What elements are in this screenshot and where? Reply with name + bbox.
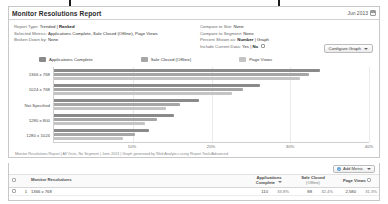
chart-plot-area	[53, 67, 369, 143]
chevron-down-icon	[364, 48, 368, 50]
metric-percent: 33.8%	[273, 189, 289, 194]
header-sale-closed-offline[interactable]: Sale Closed (Offline)	[291, 175, 335, 187]
chart-y-axis-labels: 1366 x 7681024 x 768Not Specified1280 x …	[15, 67, 53, 143]
date-range-selector[interactable]: Jun 2013	[347, 10, 376, 16]
legend-swatch-1	[141, 57, 148, 62]
bar-3-1[interactable]	[54, 118, 157, 121]
bar-group-3	[54, 112, 369, 127]
legend-item-2[interactable]: Page Views	[239, 57, 272, 62]
legend-label-1: Sale Closed (Offline)	[151, 57, 191, 62]
chart-area: 1366 x 7681024 x 768Not Specified1280 x …	[15, 67, 375, 151]
bar-0-0[interactable]	[54, 69, 320, 72]
y-axis-label-4[interactable]: 1280 x 1024	[15, 128, 53, 143]
bar-4-2[interactable]	[54, 137, 123, 140]
table-header: Monitor Resolutions Applications Complet…	[9, 175, 379, 187]
param-selected-metrics: Selected Metrics: Applications Complete,…	[14, 31, 194, 38]
calendar-icon[interactable]	[370, 10, 376, 16]
param-value-strong[interactable]: No	[252, 44, 258, 49]
bar-group-1	[54, 82, 369, 97]
param-report-type: Report Type: Trended | Ranked	[14, 24, 194, 31]
row-checkbox-cell[interactable]	[9, 187, 19, 195]
report-title-bar: Monitor Resolutions Report Jun 2013	[9, 7, 379, 20]
bar-2-2[interactable]	[54, 107, 166, 110]
header-label: Page Views	[343, 178, 366, 183]
checkbox-icon[interactable]	[12, 178, 16, 182]
y-axis-label-3[interactable]: 1280 x 800	[15, 113, 53, 128]
param-label: Broken Down by:	[14, 37, 47, 42]
row-rank: 1	[19, 187, 29, 195]
param-broken-down-by: Broken Down by: None	[14, 37, 194, 44]
add-metric-label: Add Metric	[343, 166, 363, 171]
legend-label-2: Page Views	[249, 57, 272, 62]
row-monitor-resolution[interactable]: 1366 x 768	[29, 187, 247, 195]
header-applications-complete[interactable]: Applications Complete	[247, 175, 291, 187]
param-value-strong[interactable]: Ranked	[59, 24, 75, 29]
table-row[interactable]: 11366 x 76811033.8%8832.4%2,58031.3%	[9, 187, 379, 195]
configure-graph-label: Configure Graph	[329, 46, 361, 51]
bar-group-0	[54, 67, 369, 82]
report-parameters-left: Report Type: Trended | Ranked Selected M…	[14, 24, 194, 50]
param-compare-to-segment: Compare to Segment: None	[200, 31, 374, 38]
header-sublabel: (Offline)	[306, 180, 320, 185]
x-axis-tick-3: 30%	[286, 144, 294, 149]
param-value[interactable]: None	[48, 37, 58, 42]
bar-4-1[interactable]	[54, 133, 135, 136]
param-value-strong[interactable]: Number	[237, 37, 253, 42]
bar-4-0[interactable]	[54, 129, 149, 132]
chart-x-axis-labels: 10%20%30%40%	[53, 144, 369, 152]
legend-label-0: Applications Complete	[49, 57, 93, 62]
data-table: Monitor Resolutions Applications Complet…	[9, 175, 379, 196]
y-axis-label-2[interactable]: Not Specified	[15, 97, 53, 112]
param-value[interactable]: Trended |	[40, 24, 59, 29]
row-sale-closed-offline: 8832.4%	[291, 187, 335, 195]
y-axis-label-1[interactable]: 1024 x 768	[15, 82, 53, 97]
sort-descending-icon[interactable]	[278, 181, 282, 183]
header-select-all[interactable]	[9, 175, 19, 187]
configure-graph-button[interactable]: Configure Graph	[324, 44, 373, 53]
bar-1-1[interactable]	[54, 88, 243, 91]
data-table-panel: + Add Metric Monitor Resolutions Applica…	[8, 163, 380, 201]
param-label: Report Type:	[14, 24, 39, 29]
legend-item-0[interactable]: Applications Complete	[39, 57, 93, 62]
metric-percent: 31.3%	[361, 189, 377, 194]
bar-2-1[interactable]	[54, 103, 180, 106]
table-body: 11366 x 76811033.8%8832.4%2,58031.3%	[9, 187, 379, 195]
bar-3-0[interactable]	[54, 114, 174, 117]
legend-item-1[interactable]: Sale Closed (Offline)	[141, 57, 191, 62]
legend-swatch-0	[39, 57, 46, 62]
row-applications-complete: 11033.8%	[247, 187, 291, 195]
bar-0-1[interactable]	[54, 73, 309, 76]
param-value[interactable]: Applications Complete, Sale Closed (Offl…	[48, 31, 158, 36]
chevron-down-icon	[367, 168, 371, 170]
bar-1-0[interactable]	[54, 84, 260, 87]
chart-footnote: Monitor Resolutions Report | All Visits,…	[15, 152, 375, 156]
bar-0-2[interactable]	[54, 77, 300, 80]
add-metric-button[interactable]: + Add Metric	[333, 165, 375, 173]
bar-2-0[interactable]	[54, 99, 199, 102]
report-panel: Monitor Resolutions Report Jun 2013 Repo…	[8, 6, 380, 158]
header-sublabel: Complete	[256, 180, 275, 185]
param-value[interactable]: Yes |	[242, 44, 253, 49]
param-label: Compare to Site:	[200, 24, 232, 29]
page-title: Monitor Resolutions Report	[12, 10, 101, 17]
param-percent-shown-as: Percent Shown as: Number | Graph	[200, 37, 374, 44]
bar-1-2[interactable]	[54, 92, 232, 95]
param-value[interactable]: None	[233, 24, 243, 29]
param-label: Percent Shown as:	[200, 37, 236, 42]
param-label: Include Current Data:	[200, 44, 241, 49]
header-monitor-resolutions[interactable]: Monitor Resolutions	[29, 175, 247, 187]
x-axis-tick-2: 20%	[207, 144, 215, 149]
checkbox-icon[interactable]	[12, 189, 16, 193]
include-current-data-checkbox[interactable]	[261, 44, 265, 48]
header-rank	[19, 175, 29, 187]
bar-group-4	[54, 127, 369, 142]
param-compare-to-site: Compare to Site: None	[200, 24, 374, 31]
bar-group-2	[54, 97, 369, 112]
param-value[interactable]: | Graph	[254, 37, 269, 42]
y-axis-label-0[interactable]: 1366 x 768	[15, 67, 53, 82]
bar-3-2[interactable]	[54, 122, 145, 125]
header-page-views[interactable]: Page Views	[335, 175, 379, 187]
param-label: Selected Metrics:	[14, 31, 47, 36]
checkbox-icon[interactable]	[367, 178, 371, 182]
param-value[interactable]: None	[243, 31, 253, 36]
